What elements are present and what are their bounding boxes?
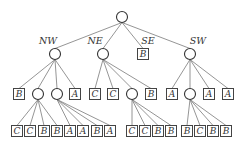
leaf-label: C — [129, 126, 136, 136]
leaf-node: B — [221, 126, 232, 137]
leaf-node: C — [140, 126, 151, 137]
tree-edge — [103, 60, 113, 89]
tree-edge — [38, 60, 55, 89]
tree-edge — [19, 60, 55, 89]
node-nw — [50, 49, 61, 60]
leaf-label: B — [167, 126, 175, 136]
tree-edge — [57, 100, 83, 126]
quadrant-label-sw: SW — [190, 35, 208, 46]
node-nw3 — [52, 89, 63, 100]
leaf-label: C — [92, 89, 99, 99]
tree-nodes: BBACCBAAACCBBAABACCBBBCBB — [12, 12, 234, 137]
leaf-label: A — [224, 89, 232, 99]
leaf-label: A — [205, 89, 213, 99]
node-nw2 — [33, 89, 44, 100]
leaf-node: B — [39, 126, 50, 137]
tree-edge — [132, 100, 171, 126]
leaf-label: B — [183, 126, 191, 136]
leaf-node: B — [14, 89, 25, 100]
leaf-label: C — [110, 89, 117, 99]
quadrant-labels: NWNESESW — [38, 35, 207, 46]
quadtree-diagram: BBACCBAAACCBBAABACCBBBCBB NWNESESW — [0, 0, 246, 153]
leaf-node: A — [70, 89, 81, 100]
leaf-label: B — [154, 126, 162, 136]
leaf-label: B — [93, 126, 101, 136]
leaf-label: A — [66, 126, 74, 136]
tree-edge — [95, 60, 103, 89]
quadrant-label-ne: NE — [86, 35, 102, 46]
tree-edge — [55, 60, 75, 89]
leaf-label: B — [15, 89, 23, 99]
leaf-node: C — [108, 89, 119, 100]
leaf-label: B — [53, 126, 61, 136]
leaf-label: A — [79, 126, 87, 136]
leaf-node: B — [146, 89, 157, 100]
node-sw2 — [185, 89, 196, 100]
leaf-label: C — [27, 126, 34, 136]
leaf-label: B — [139, 49, 147, 59]
leaf-node: B — [52, 126, 63, 137]
leaf-label: A — [71, 89, 79, 99]
leaf-label: A — [106, 126, 114, 136]
tree-edge — [30, 100, 38, 126]
leaf-label: B — [40, 126, 48, 136]
leaf-label: B — [209, 126, 217, 136]
leaf-node: A — [223, 89, 234, 100]
leaf-node: C — [127, 126, 138, 137]
leaf-label: A — [168, 89, 176, 99]
leaf-node: B — [182, 126, 193, 137]
leaf-node: A — [105, 126, 116, 137]
leaf-node: C — [195, 126, 206, 137]
root-node — [117, 12, 128, 23]
tree-edge — [190, 100, 213, 126]
leaf-node: B — [208, 126, 219, 137]
tree-edge — [103, 60, 151, 89]
leaf-node: A — [204, 89, 215, 100]
leaf-node: C — [90, 89, 101, 100]
tree-edge — [55, 60, 57, 89]
leaf-node: C — [25, 126, 36, 137]
leaf-node: A — [167, 89, 178, 100]
tree-edge — [132, 100, 158, 126]
leaf-node: A — [65, 126, 76, 137]
leaf-label: C — [142, 126, 149, 136]
leaf-label: B — [222, 126, 230, 136]
node-ne — [98, 49, 109, 60]
tree-edge — [172, 60, 190, 89]
tree-edge — [57, 100, 97, 126]
leaf-label: B — [147, 89, 155, 99]
node-sw — [185, 49, 196, 60]
leaf-node: C — [12, 126, 23, 137]
tree-edge — [17, 100, 38, 126]
leaf-label: C — [14, 126, 21, 136]
tree-edge — [187, 100, 190, 126]
tree-edge — [190, 60, 209, 89]
leaf-node: B — [153, 126, 164, 137]
leaf-node: B — [92, 126, 103, 137]
node-ne3 — [127, 89, 138, 100]
quadrant-label-nw: NW — [38, 35, 58, 46]
tree-edge — [190, 60, 228, 89]
leaf-node: B — [166, 126, 177, 137]
leaf-label: C — [197, 126, 204, 136]
tree-edge — [57, 100, 110, 126]
quadrant-label-se: SE — [141, 35, 155, 46]
leaf-node: A — [78, 126, 89, 137]
leaf-se: B — [138, 49, 149, 60]
